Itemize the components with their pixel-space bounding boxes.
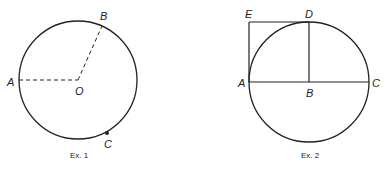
label-o: O [75,85,84,97]
diagram-canvas: A B O C Ex. 1 E D A B C Ex. 2 [0,0,388,169]
radius-ob [78,26,102,80]
figure-ex2: E D A B C Ex. 2 [237,8,380,160]
label-b: B [100,10,107,22]
label-d: D [305,8,313,20]
caption-ex1: Ex. 1 [70,151,89,160]
label-e: E [245,8,253,20]
label-c: C [104,138,112,150]
point-c [105,131,109,135]
label-c2: C [372,77,380,89]
figure-ex1: A B O C Ex. 1 [6,10,137,160]
label-a: A [6,76,14,88]
label-a2: A [237,77,245,89]
label-b2: B [306,87,313,99]
caption-ex2: Ex. 2 [301,151,320,160]
